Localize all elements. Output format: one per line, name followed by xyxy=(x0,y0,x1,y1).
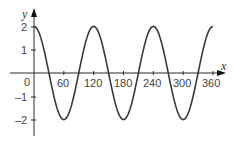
y-axis-label: y xyxy=(21,7,28,21)
y-axis-arrow-icon xyxy=(31,8,37,17)
x-tick-180: 180 xyxy=(114,77,132,89)
x-tick-300: 300 xyxy=(173,77,191,89)
y-tick-1: 1 xyxy=(21,44,27,56)
x-tick-60: 60 xyxy=(57,77,69,89)
y-tick-minus-2: –2 xyxy=(15,114,27,126)
origin-label: 0 xyxy=(24,76,30,88)
x-tick-360: 360 xyxy=(202,77,220,89)
y-tick-minus-1: –1 xyxy=(15,91,27,103)
x-tick-240: 240 xyxy=(143,77,161,89)
x-axis-label: x xyxy=(220,59,227,73)
cosine-chart: x y 0 60 120 180 240 300 360 2 1 –1 –2 xyxy=(0,0,234,148)
x-tick-120: 120 xyxy=(84,77,102,89)
y-tick-2: 2 xyxy=(21,21,27,33)
